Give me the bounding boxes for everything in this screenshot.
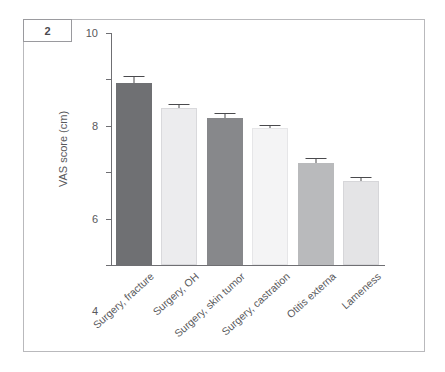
y-tick-mark: 4 <box>106 172 111 173</box>
bar-rect[interactable] <box>116 83 152 265</box>
bar-rect[interactable] <box>207 118 243 265</box>
error-bar-cap <box>169 104 190 105</box>
error-bar-cap <box>214 113 235 114</box>
bar-rect[interactable] <box>298 163 334 265</box>
y-tick-mark: 0 <box>106 265 111 266</box>
bar-rect[interactable] <box>252 128 288 265</box>
y-tick-mark: 6 <box>106 126 111 127</box>
y-tick-label: 6 <box>92 213 98 225</box>
y-tick-mark: 8 <box>106 79 111 80</box>
y-axis-title: VAS score (cm) <box>57 111 69 187</box>
panel-number-tag: 2 <box>23 19 72 42</box>
error-bar-cap <box>351 177 372 178</box>
panel-number-label: 2 <box>44 25 50 37</box>
y-tick-label: 10 <box>86 27 98 39</box>
bar-group[interactable] <box>252 33 288 265</box>
y-tick-label: 8 <box>92 120 98 132</box>
bar-group[interactable] <box>161 33 197 265</box>
bar-group[interactable] <box>116 33 152 265</box>
error-bar-cap <box>305 158 326 159</box>
plot-area: 0246810 <box>111 33 384 265</box>
error-bar-cap <box>123 76 144 77</box>
bar-group[interactable] <box>298 33 334 265</box>
bar-group[interactable] <box>207 33 243 265</box>
y-tick-mark: 10 <box>106 33 111 34</box>
error-bar-cap <box>260 125 281 126</box>
bar-rect[interactable] <box>343 181 379 265</box>
bar-rect[interactable] <box>161 108 197 265</box>
y-tick-mark: 2 <box>106 219 111 220</box>
bar-group[interactable] <box>343 33 379 265</box>
x-axis-line <box>111 265 385 266</box>
